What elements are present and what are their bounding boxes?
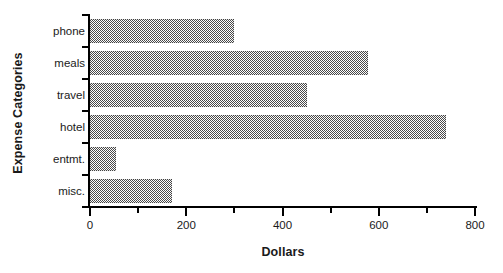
x-axis-label-200: 200 [156, 219, 216, 231]
y-axis-label-entmt: entmt. [5, 153, 85, 165]
y-axis-label-phone: phone [5, 25, 85, 37]
y-axis-tick [82, 110, 89, 112]
y-axis-tick [82, 174, 89, 176]
x-axis-tick-major [282, 208, 284, 216]
bar-chart: Expense Categories phonemealstravelhotel… [0, 0, 503, 273]
y-axis-tick-labels: phonemealstravelhotelentmt.misc. [0, 0, 85, 273]
y-axis-label-travel: travel [5, 89, 85, 101]
y-axis-tick [82, 78, 89, 80]
y-axis-label-hotel: hotel [5, 121, 85, 133]
x-axis-label-800: 800 [445, 219, 503, 231]
x-axis-label-0: 0 [60, 219, 120, 231]
y-axis-tick [82, 206, 89, 208]
bar-travel [90, 83, 307, 107]
x-axis-tick-major [89, 208, 91, 216]
x-axis-tick-minor [330, 208, 332, 213]
bar-misc [90, 179, 172, 203]
bar-entmt [90, 147, 116, 171]
x-axis-tick-minor [426, 208, 428, 213]
bar-meals [90, 51, 368, 75]
y-axis-label-meals: meals [5, 57, 85, 69]
y-axis-tick [82, 142, 89, 144]
x-axis-label-400: 400 [253, 219, 313, 231]
x-axis-title: Dollars [90, 245, 476, 259]
x-axis-tick-minor [137, 208, 139, 213]
x-axis-tick-minor [233, 208, 235, 213]
x-axis-tick-major [474, 208, 476, 216]
plot-area [90, 15, 475, 207]
x-axis-label-600: 600 [349, 219, 409, 231]
y-axis-tick [82, 46, 89, 48]
bar-hotel [90, 115, 446, 139]
y-axis-label-misc: misc. [5, 185, 85, 197]
x-axis-tick-major [378, 208, 380, 216]
y-axis-tick [82, 14, 89, 16]
bar-phone [90, 19, 234, 43]
x-axis-tick-major [185, 208, 187, 216]
